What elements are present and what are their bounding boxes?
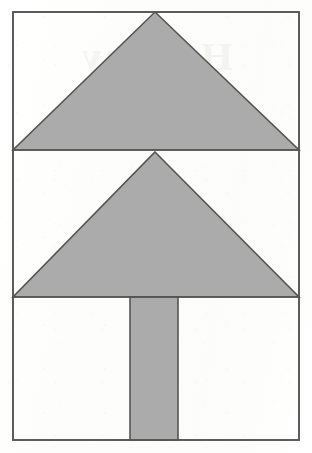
figure-page: Holiday xyxy=(0,0,312,453)
lower-triangle xyxy=(13,152,299,297)
trunk-rectangle xyxy=(130,297,178,440)
upper-triangle xyxy=(13,12,299,150)
tree-pyramid-figure xyxy=(0,0,312,453)
